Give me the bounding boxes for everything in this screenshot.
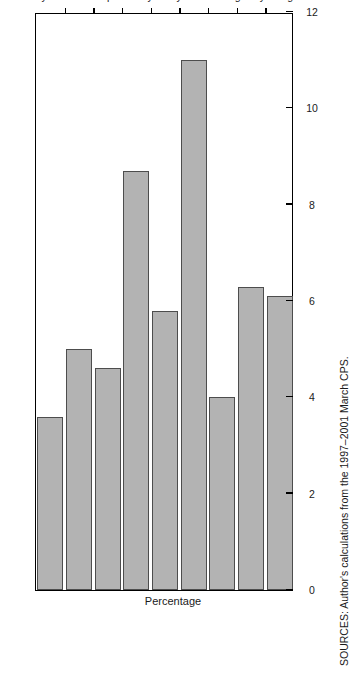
category-tick — [208, 8, 209, 14]
bar[interactable] — [123, 171, 149, 590]
category-tick — [151, 8, 152, 14]
bar[interactable] — [152, 311, 178, 590]
category-tick — [179, 8, 180, 14]
bar[interactable] — [238, 287, 264, 590]
value-tick — [286, 300, 293, 301]
rotated-figure: 024681012 Bay AreaCentralCoastInlandEmpi… — [0, 0, 355, 686]
bar[interactable] — [209, 397, 235, 590]
bar-slot — [152, 14, 178, 590]
value-tick-label: 4 — [301, 391, 323, 403]
bar-series — [36, 14, 292, 590]
category-tick — [237, 8, 238, 14]
value-tick-label: 2 — [301, 488, 323, 500]
bar[interactable] — [95, 368, 121, 590]
value-tick-label: 10 — [301, 102, 323, 114]
value-tick-label: 8 — [301, 199, 323, 211]
category-label: Stateaverage — [261, 0, 299, 2]
plot-area: 024681012 Bay AreaCentralCoastInlandEmpi… — [35, 13, 293, 591]
bar[interactable] — [267, 296, 293, 590]
bar-slot — [95, 14, 121, 590]
bar-slot — [37, 14, 63, 590]
value-tick — [286, 492, 293, 493]
category-tick — [93, 8, 94, 14]
source-note: SOURCES: Author's calculations from the … — [338, 356, 350, 666]
bar[interactable] — [37, 417, 63, 590]
y-axis-title: Percentage — [145, 595, 201, 607]
value-tick — [286, 589, 293, 590]
bar-slot — [267, 14, 293, 590]
value-tick-label: 0 — [301, 584, 323, 596]
value-tick-label: 6 — [301, 295, 323, 307]
value-tick — [286, 396, 293, 397]
bar-slot — [123, 14, 149, 590]
bar[interactable] — [181, 60, 207, 590]
bar-slot — [209, 14, 235, 590]
value-tick — [286, 203, 293, 204]
chart-page: 024681012 Bay AreaCentralCoastInlandEmpi… — [0, 0, 355, 686]
category-tick — [65, 8, 66, 14]
value-tick — [286, 11, 293, 12]
bar[interactable] — [66, 349, 92, 590]
bar-slot — [238, 14, 264, 590]
chart-stage: 024681012 Bay AreaCentralCoastInlandEmpi… — [27, 3, 327, 643]
value-tick-label: 12 — [301, 6, 323, 18]
value-tick — [286, 107, 293, 108]
category-label-line: average — [261, 0, 299, 2]
category-tick — [265, 8, 266, 14]
category-tick — [122, 8, 123, 14]
bar-slot — [181, 14, 207, 590]
bar-slot — [66, 14, 92, 590]
